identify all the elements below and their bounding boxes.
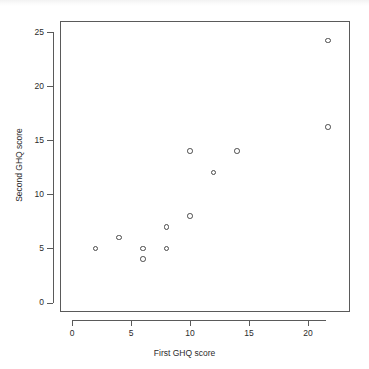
data-point (187, 148, 193, 154)
data-point (211, 170, 217, 176)
data-point (140, 256, 146, 262)
data-point (325, 38, 331, 44)
data-point (325, 124, 331, 130)
x-axis-title: First GHQ score (0, 348, 369, 358)
y-axis-title: Second GHQ score (14, 105, 24, 225)
data-points-layer (0, 0, 369, 369)
scatter-plot-figure: 0510152025 05101520 First GHQ score Seco… (0, 0, 369, 369)
data-point (187, 213, 193, 219)
data-point (234, 148, 240, 154)
data-point (140, 246, 146, 252)
data-point (116, 235, 122, 241)
data-point (164, 224, 170, 230)
data-point (93, 246, 99, 252)
data-point (164, 246, 170, 252)
